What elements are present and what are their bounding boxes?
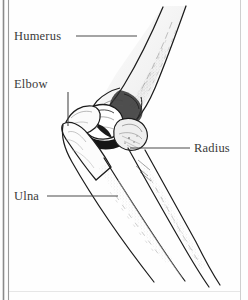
label-ulna: Ulna (14, 189, 39, 204)
label-humerus: Humerus (14, 29, 61, 44)
label-radius: Radius (194, 141, 230, 156)
illustration-page: Humerus Elbow Ulna Radius (0, 0, 248, 300)
label-elbow: Elbow (14, 77, 48, 92)
